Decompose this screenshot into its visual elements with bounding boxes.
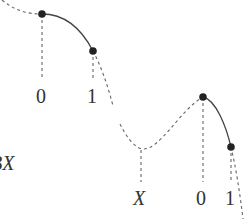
second-curve-solid [203,97,231,147]
curve-point-0 [38,10,46,18]
tick-label-0: 0 [36,85,46,107]
curve-point-0b [199,93,207,101]
curve-point-1b [227,143,235,151]
first-curve-solid [42,14,93,51]
first-curve-group: 0 1 [2,0,113,107]
tick-label-1: 1 [87,85,97,107]
second-curve-dashed-dip [120,97,203,149]
tick-label-x: X [132,187,146,209]
left-label-bx: BX [0,152,15,174]
tick-label-0b: 0 [196,187,206,209]
curve-point-1 [89,47,97,55]
diagram-canvas: 0 1 BX X 0 1 [0,0,250,219]
first-curve-dashed-lead [2,0,42,14]
second-curve-group: X 0 1 [120,93,243,219]
tick-label-1b: 1 [225,187,235,209]
